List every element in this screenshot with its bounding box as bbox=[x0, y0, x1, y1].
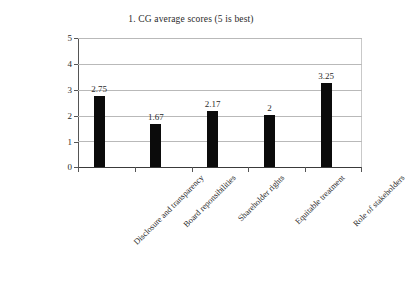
bar-role-of-stakeholders bbox=[321, 83, 332, 167]
gridline-2 bbox=[78, 116, 362, 117]
x-tick-mark-1 bbox=[135, 167, 136, 172]
bar-value-label-1: 1.67 bbox=[136, 113, 176, 122]
x-tick-mark-3 bbox=[248, 167, 249, 172]
x-category-label-4: Role of stakeholders bbox=[352, 174, 407, 229]
bar-disclosure-and-transparency bbox=[94, 96, 105, 167]
x-tick-mark-4 bbox=[305, 167, 306, 172]
bar-value-label-4: 3.25 bbox=[306, 72, 346, 81]
bar-equitable-treatment bbox=[264, 115, 275, 167]
gridline-4 bbox=[78, 64, 362, 65]
bar-board-reponsibilities bbox=[150, 124, 161, 167]
y-tick-label-3: 3 bbox=[58, 86, 72, 95]
y-tick-label-2: 2 bbox=[58, 112, 72, 121]
bar-value-label-0: 2.75 bbox=[79, 85, 119, 94]
bar-shareholder-rights bbox=[207, 111, 218, 167]
y-tick-label-5: 5 bbox=[58, 34, 72, 43]
gridline-1 bbox=[78, 141, 362, 142]
x-category-label-3: Equitable treatment bbox=[295, 174, 347, 226]
y-tick-label-4: 4 bbox=[58, 60, 72, 69]
x-tick-mark-0 bbox=[78, 167, 79, 172]
bar-value-label-2: 2.17 bbox=[193, 100, 233, 109]
gridline-5 bbox=[78, 38, 362, 39]
y-tick-label-1: 1 bbox=[58, 138, 72, 147]
x-tick-mark-2 bbox=[192, 167, 193, 172]
y-tick-label-0: 0 bbox=[58, 163, 72, 172]
bar-value-label-3: 2 bbox=[249, 104, 289, 113]
axis-baseline bbox=[78, 167, 362, 168]
gridline-3 bbox=[78, 90, 362, 91]
x-category-label-2: Shareholder rights bbox=[237, 174, 287, 224]
x-tick-mark-5 bbox=[361, 167, 362, 172]
chart-title: 1. CG average scores (5 is best) bbox=[0, 14, 382, 24]
